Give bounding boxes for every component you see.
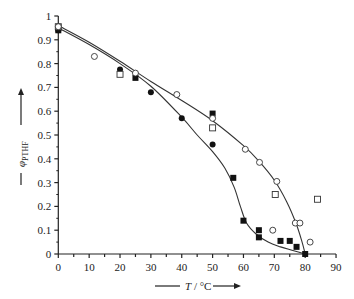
square-open-marker [117,71,123,77]
circle-open-marker [270,227,276,233]
circle-open-marker [91,53,97,59]
arrow-right-icon [234,283,241,289]
square-filled-marker [287,238,293,244]
x-tick-label: 30 [145,261,157,273]
x-tick-label: 80 [300,261,312,273]
fit-curve [58,26,305,254]
y-tick-label: 0.5 [38,129,52,141]
circle-open-marker [297,220,303,226]
x-tick-label: 20 [115,261,127,273]
circle-open-marker [307,239,313,245]
square-filled-marker [256,234,262,240]
y-axis-title: φPTHF [15,88,30,185]
square-open-marker [210,125,216,131]
square-open-marker [272,192,278,198]
x-ticks: 0102030405060708090 [56,254,342,273]
data-points [55,24,320,257]
x-axis-title: T / °C [155,280,241,292]
y-tick-label: 0.3 [38,177,52,189]
circle-filled-marker [210,142,216,148]
x-tick-label: 50 [207,261,219,273]
x-tick-label: 60 [238,261,250,273]
circle-open-marker [257,159,263,165]
square-open-marker [315,196,321,202]
square-filled-marker [240,218,246,224]
circle-open-marker [274,178,280,184]
square-filled-marker [294,244,300,250]
circle-open-marker [132,70,138,76]
fit-curves [58,26,305,254]
circle-open-marker [174,92,180,98]
circle-open-marker [55,24,61,30]
y-tick-label: 0.4 [38,153,52,165]
circle-open-marker [242,146,248,152]
x-tick-label: 40 [176,261,188,273]
square-filled-marker [230,175,236,181]
circle-filled-marker [179,115,185,121]
x-tick-label: 10 [84,261,96,273]
y-tick-label: 0.8 [38,58,52,70]
y-tick-label: 0.1 [38,224,52,236]
fit-curve [58,28,305,254]
square-filled-marker [302,251,308,257]
y-tick-label: 0.7 [38,81,52,93]
x-axis-title-text: T / °C [185,280,211,292]
y-tick-label: 0.2 [38,200,52,212]
y-tick-label: 0.9 [38,34,52,46]
square-filled-marker [277,238,283,244]
y-tick-label: 0 [46,248,52,260]
y-ticks: 00.10.20.30.40.50.60.70.80.91 [38,10,59,260]
x-tick-label: 70 [269,261,281,273]
x-tick-label: 90 [331,261,343,273]
arrow-up-icon [18,88,24,95]
chart: 00.10.20.30.40.50.60.70.80.91 0102030405… [0,0,354,299]
x-tick-label: 0 [56,261,62,273]
y-tick-label: 1 [46,10,52,22]
circle-filled-marker [148,89,154,95]
circle-open-marker [210,115,216,121]
y-axis-title-text: φPTHF [15,141,30,167]
y-tick-label: 0.6 [38,105,52,117]
square-filled-marker [256,227,262,233]
